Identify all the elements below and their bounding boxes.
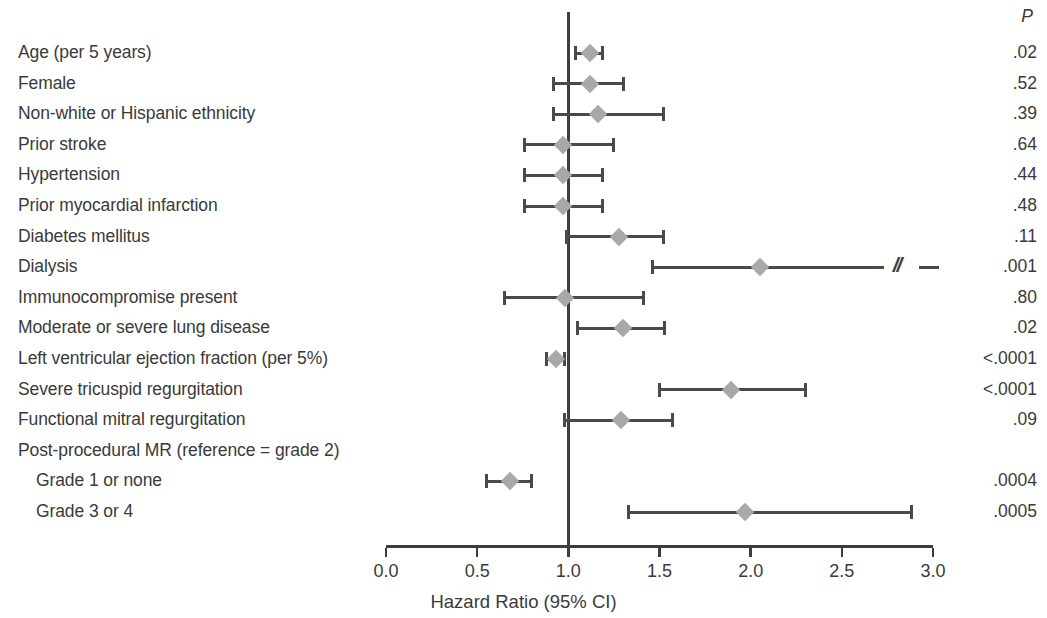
confidence-interval-cap bbox=[601, 46, 604, 60]
row-pvalue: .001 bbox=[1003, 258, 1037, 276]
row-label: Post-procedural MR (reference = grade 2) bbox=[18, 442, 339, 460]
row-label: Severe tricuspid regurgitation bbox=[18, 381, 243, 399]
point-estimate-marker bbox=[736, 503, 754, 521]
confidence-interval-cap bbox=[530, 474, 533, 488]
x-axis-tick-label: 1.0 bbox=[556, 562, 581, 580]
point-estimate-marker bbox=[546, 350, 564, 368]
confidence-interval-cap bbox=[574, 46, 577, 60]
confidence-interval-cap bbox=[663, 321, 666, 335]
x-axis-tick bbox=[749, 548, 752, 557]
x-axis-tick-label: 0.5 bbox=[465, 562, 490, 580]
x-axis-tick-label: 2.0 bbox=[738, 562, 763, 580]
forest-plot: P Age (per 5 years).02Female.52Non-white… bbox=[0, 0, 1047, 618]
confidence-interval-cap bbox=[485, 474, 488, 488]
row-label: Prior myocardial infarction bbox=[18, 197, 218, 215]
point-estimate-marker bbox=[610, 227, 628, 245]
row-pvalue: .09 bbox=[1013, 411, 1037, 429]
point-estimate-marker bbox=[581, 44, 599, 62]
pvalue-column-header: P bbox=[1021, 8, 1033, 26]
confidence-interval-cap bbox=[662, 230, 665, 244]
confidence-interval-cap bbox=[627, 505, 630, 519]
confidence-interval-cap bbox=[565, 230, 568, 244]
confidence-interval-cap bbox=[563, 413, 566, 427]
row-label: Moderate or severe lung disease bbox=[18, 319, 270, 337]
row-label: Diabetes mellitus bbox=[18, 228, 150, 246]
confidence-interval-cap bbox=[576, 321, 579, 335]
axis-break-icon: // bbox=[893, 254, 901, 275]
x-axis-title: Hazard Ratio (95% CI) bbox=[0, 593, 1047, 612]
confidence-interval-cap bbox=[552, 107, 555, 121]
row-pvalue: .02 bbox=[1013, 44, 1037, 62]
row-pvalue: .80 bbox=[1013, 289, 1037, 307]
confidence-interval-cap bbox=[642, 291, 645, 305]
x-axis-tick bbox=[567, 548, 570, 557]
row-label: Grade 1 or none bbox=[36, 472, 162, 490]
row-label: Grade 3 or 4 bbox=[36, 503, 133, 521]
confidence-interval-cap bbox=[552, 77, 555, 91]
x-axis-tick bbox=[932, 548, 935, 557]
row-label: Immunocompromise present bbox=[18, 289, 237, 307]
row-label: Non-white or Hispanic ethnicity bbox=[18, 105, 255, 123]
point-estimate-marker bbox=[751, 258, 769, 276]
confidence-interval-cap bbox=[523, 199, 526, 213]
confidence-interval-cap bbox=[671, 413, 674, 427]
confidence-interval-cap bbox=[612, 138, 615, 152]
row-pvalue: .0004 bbox=[993, 472, 1037, 490]
confidence-interval-cap bbox=[601, 199, 604, 213]
point-estimate-marker bbox=[555, 289, 573, 307]
x-axis-tick bbox=[658, 548, 661, 557]
point-estimate-marker bbox=[721, 380, 739, 398]
row-pvalue: .0005 bbox=[993, 503, 1037, 521]
confidence-interval-cap bbox=[523, 168, 526, 182]
x-axis-tick bbox=[841, 548, 844, 557]
row-pvalue: .44 bbox=[1013, 166, 1037, 184]
x-axis-tick bbox=[385, 548, 388, 557]
confidence-interval-cap bbox=[658, 383, 661, 397]
row-label: Age (per 5 years) bbox=[18, 44, 152, 62]
confidence-interval-cap bbox=[503, 291, 506, 305]
point-estimate-marker bbox=[614, 319, 632, 337]
truncated-interval-tail bbox=[919, 266, 939, 269]
row-label: Left ventricular ejection fraction (per … bbox=[18, 350, 328, 368]
point-estimate-marker bbox=[581, 74, 599, 92]
confidence-interval-cap bbox=[651, 260, 654, 274]
row-pvalue: <.0001 bbox=[983, 350, 1037, 368]
row-label: Prior stroke bbox=[18, 136, 106, 154]
confidence-interval-line bbox=[629, 511, 912, 514]
row-pvalue: .11 bbox=[1014, 228, 1037, 246]
row-pvalue: .39 bbox=[1013, 105, 1037, 123]
row-pvalue: .64 bbox=[1013, 136, 1037, 154]
confidence-interval-cap bbox=[523, 138, 526, 152]
row-label: Female bbox=[18, 75, 76, 93]
x-axis-tick-label: 1.5 bbox=[647, 562, 672, 580]
row-label: Hypertension bbox=[18, 166, 120, 184]
confidence-interval-cap bbox=[601, 168, 604, 182]
row-pvalue: .48 bbox=[1013, 197, 1037, 215]
confidence-interval-line bbox=[554, 113, 663, 116]
x-axis-tick bbox=[476, 548, 479, 557]
point-estimate-marker bbox=[588, 105, 606, 123]
point-estimate-marker bbox=[612, 411, 630, 429]
confidence-interval-cap bbox=[662, 107, 665, 121]
x-axis-tick-label: 2.5 bbox=[829, 562, 854, 580]
row-pvalue: <.0001 bbox=[983, 381, 1037, 399]
row-label: Functional mitral regurgitation bbox=[18, 411, 245, 429]
confidence-interval-cap bbox=[910, 505, 913, 519]
confidence-interval-cap bbox=[804, 383, 807, 397]
x-axis-tick-label: 0.0 bbox=[373, 562, 398, 580]
confidence-interval-cap bbox=[622, 77, 625, 91]
point-estimate-marker bbox=[501, 472, 519, 490]
row-label: Dialysis bbox=[18, 258, 78, 276]
reference-line bbox=[567, 12, 570, 545]
x-axis-tick-label: 3.0 bbox=[920, 562, 945, 580]
row-pvalue: .02 bbox=[1013, 319, 1037, 337]
row-pvalue: .52 bbox=[1013, 75, 1037, 93]
